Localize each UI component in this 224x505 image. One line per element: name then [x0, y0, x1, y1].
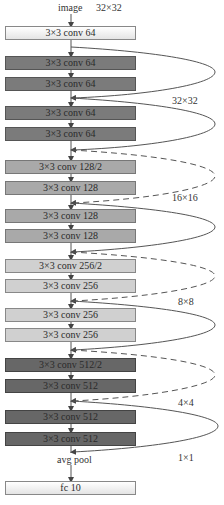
- conv-layer: 3×3 conv 256/2: [5, 259, 136, 273]
- conv-layer: 3×3 conv 256: [5, 279, 136, 293]
- conv-layer: 3×3 conv 64: [5, 127, 136, 141]
- conv-layer: 3×3 conv 256: [5, 328, 136, 342]
- conv-layer: 3×3 conv 128: [5, 209, 136, 223]
- conv-layer: 3×3 conv 512: [5, 432, 136, 446]
- size-label-32: 32×32: [172, 95, 198, 106]
- input-size-label: 32×32: [96, 2, 122, 13]
- connections-diagram: [0, 0, 224, 505]
- fc-layer: fc 10: [5, 481, 136, 495]
- conv-layer: 3×3 conv 64: [5, 106, 136, 120]
- size-label-4: 4×4: [178, 397, 194, 408]
- size-label-16: 16×16: [172, 192, 198, 203]
- input-label: image: [58, 2, 82, 13]
- conv-layer: 3×3 conv 128: [5, 181, 136, 195]
- conv-layer: 3×3 conv 512: [5, 379, 136, 393]
- conv-layer: 3×3 conv 256: [5, 308, 136, 322]
- size-label-1: 1×1: [178, 452, 194, 463]
- avg-pool-label: avg pool: [57, 454, 92, 465]
- conv-layer: 3×3 conv 64: [5, 56, 136, 70]
- conv-layer: 3×3 conv 512: [5, 410, 136, 424]
- size-label-8: 8×8: [178, 296, 194, 307]
- conv-layer: 3×3 conv 64: [5, 77, 136, 91]
- conv-layer: 3×3 conv 64: [5, 26, 136, 40]
- conv-layer: 3×3 conv 512/2: [5, 358, 136, 372]
- conv-layer: 3×3 conv 128: [5, 229, 136, 243]
- conv-layer: 3×3 conv 128/2: [5, 160, 136, 174]
